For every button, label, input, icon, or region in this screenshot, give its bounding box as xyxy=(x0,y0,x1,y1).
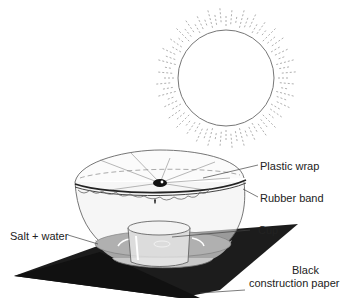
cup xyxy=(128,221,190,267)
label-cup: Cup xyxy=(258,224,278,236)
solar-still-illustration xyxy=(0,0,353,302)
label-salt-water: Salt + water xyxy=(10,230,68,242)
label-black: Black xyxy=(292,264,319,276)
label-rubber-band: Rubber band xyxy=(260,192,324,204)
label-plastic-wrap: Plastic wrap xyxy=(260,160,319,172)
sun-icon xyxy=(156,8,295,147)
label-construction-paper: construction paper xyxy=(249,277,340,289)
